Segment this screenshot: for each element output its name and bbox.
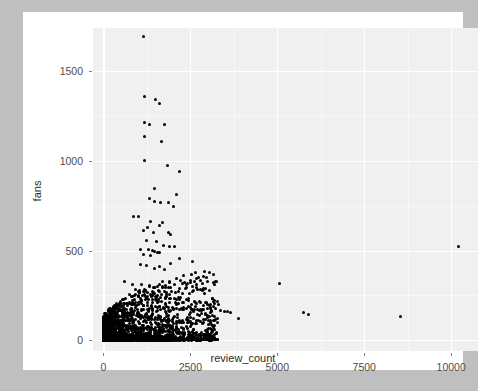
scatter-point: [172, 308, 175, 311]
scatter-point: [190, 273, 193, 276]
scatter-point: [148, 123, 151, 126]
scatter-point: [178, 321, 181, 324]
scatter-point: [143, 159, 146, 162]
scatter-point: [169, 309, 172, 312]
scatter-point: [194, 322, 197, 325]
scatter-point: [106, 319, 109, 322]
scatter-point: [135, 304, 138, 307]
scatter-point: [152, 231, 155, 234]
scatter-point: [145, 312, 148, 315]
y-tick-label: 1000: [23, 155, 83, 167]
scatter-point: [214, 307, 217, 310]
scatter-point: [302, 311, 305, 314]
y-tick-mark: [89, 251, 92, 252]
scatter-point: [155, 240, 158, 243]
scatter-point: [158, 102, 161, 105]
scatter-point: [140, 283, 143, 286]
scatter-point: [149, 220, 152, 223]
scatter-point: [203, 270, 206, 273]
scatter-point: [158, 224, 161, 227]
scatter-point: [166, 164, 169, 167]
scatter-point: [133, 335, 136, 338]
scatter-point: [178, 331, 181, 334]
scatter-point: [142, 327, 145, 330]
scatter-point: [147, 335, 150, 338]
scatter-point: [153, 267, 156, 270]
scatter-point: [148, 285, 151, 288]
scatter-point: [208, 271, 211, 274]
scatter-point: [160, 300, 163, 303]
y-tick-mark: [89, 340, 92, 341]
scatter-point: [156, 309, 159, 312]
scatter-point: [159, 201, 162, 204]
scatter-point: [157, 289, 160, 292]
scatter-points-layer: [93, 28, 478, 351]
scatter-point: [149, 254, 152, 257]
scatter-point: [168, 330, 171, 333]
plot-card: 050010001500 025005000750010000 fans rev…: [23, 12, 463, 370]
scatter-point: [212, 319, 215, 322]
scatter-point: [208, 289, 211, 292]
scatter-point: [202, 304, 205, 307]
y-tick-label: 0: [23, 334, 83, 346]
scatter-point: [144, 319, 147, 322]
scatter-point: [198, 314, 201, 317]
scatter-point: [192, 289, 195, 292]
scatter-point: [181, 292, 184, 295]
scatter-point: [210, 310, 213, 313]
scatter-point: [178, 257, 181, 260]
scatter-point: [169, 297, 172, 300]
scatter-point: [143, 135, 146, 138]
scatter-point: [153, 200, 156, 203]
scatter-point: [192, 332, 195, 335]
plot-panel: [93, 28, 478, 351]
scatter-point: [206, 280, 209, 283]
scatter-point: [151, 313, 154, 316]
scatter-point: [175, 193, 178, 196]
scatter-point: [162, 244, 165, 247]
scatter-point: [139, 263, 142, 266]
scatter-point: [170, 290, 173, 293]
scatter-point: [171, 325, 174, 328]
scatter-point: [188, 292, 191, 295]
scatter-point: [178, 308, 181, 311]
scatter-point: [142, 290, 145, 293]
scatter-point: [217, 303, 220, 306]
scatter-point: [206, 303, 209, 306]
scatter-point: [143, 121, 146, 124]
scatter-point: [198, 333, 201, 336]
scatter-point: [122, 316, 125, 319]
scatter-point: [142, 253, 145, 256]
scatter-point: [181, 301, 184, 304]
scatter-point: [112, 305, 115, 308]
scatter-point: [111, 321, 114, 324]
scatter-point: [118, 303, 121, 306]
scatter-point: [167, 201, 170, 204]
scatter-point: [113, 326, 116, 329]
scatter-point: [169, 286, 172, 289]
scatter-point: [148, 197, 151, 200]
scatter-point: [131, 324, 134, 327]
scatter-point: [168, 301, 171, 304]
scatter-point: [182, 327, 185, 330]
scatter-point: [165, 305, 168, 308]
scatter-point: [123, 280, 126, 283]
scatter-point: [150, 326, 153, 329]
scatter-point: [149, 293, 152, 296]
scatter-point: [211, 324, 214, 327]
scatter-point: [122, 322, 125, 325]
scatter-point: [158, 251, 161, 254]
scatter-point: [173, 245, 176, 248]
scatter-point: [139, 300, 142, 303]
scatter-point: [122, 313, 125, 316]
scatter-point: [168, 245, 171, 248]
scatter-point: [192, 310, 195, 313]
scatter-point: [142, 229, 145, 232]
scatter-point: [203, 292, 206, 295]
scatter-point: [159, 308, 162, 311]
scatter-point: [278, 282, 281, 285]
scatter-point: [216, 338, 219, 341]
scatter-point: [237, 317, 240, 320]
scatter-point: [141, 308, 144, 311]
scatter-point: [141, 337, 144, 340]
